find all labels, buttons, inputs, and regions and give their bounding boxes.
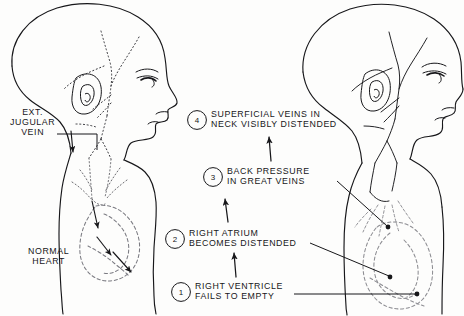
callout-label-right-atrium: RIGHT ATRIUM BECOMES DISTENDED xyxy=(189,229,296,249)
illustration-artwork xyxy=(0,0,464,316)
right-figure-ear xyxy=(361,70,390,111)
callout-label-superficial-veins: SUPERFICIAL VEINS IN NECK VISIBLY DISTEN… xyxy=(211,110,337,130)
right-figure-torso-outline xyxy=(344,163,444,315)
left-figure-normal-heart xyxy=(80,205,140,281)
right-figure-distended-great-veins xyxy=(355,201,413,236)
callout-number-4: 4 xyxy=(190,116,204,125)
callout-chain-arrows xyxy=(225,137,271,277)
left-figure-ear xyxy=(72,74,101,114)
callout-number-3: 3 xyxy=(206,173,220,182)
callout-number-2: 2 xyxy=(168,235,182,244)
left-figure-torso-outline xyxy=(59,153,156,314)
right-figure-head-outline xyxy=(303,4,463,207)
medical-illustration: EXT. JUGULAR VEIN NORMAL HEART 4 SUPERFI… xyxy=(0,0,464,316)
right-figure-distended-superficial-veins xyxy=(352,32,427,202)
ext-jugular-leader-line xyxy=(57,134,97,150)
callout-number-1: 1 xyxy=(174,288,188,297)
left-figure-face-detail xyxy=(136,69,168,124)
label-ext-jugular-vein: EXT. JUGULAR VEIN xyxy=(10,108,55,138)
label-normal-heart: NORMAL HEART xyxy=(28,247,69,267)
callout-label-back-pressure: BACK PRESSURE IN GREAT VEINS xyxy=(227,167,310,187)
callout-leader-dots xyxy=(386,225,420,297)
left-figure-great-veins xyxy=(72,158,127,205)
right-figure-face-detail xyxy=(422,63,454,120)
callout-label-right-ventricle: RIGHT VENTRICLE FAILS TO EMPTY xyxy=(195,282,283,302)
callout-leader-lines xyxy=(294,181,416,294)
right-figure-distended-heart xyxy=(363,222,433,309)
callout-number-circles xyxy=(166,111,223,302)
